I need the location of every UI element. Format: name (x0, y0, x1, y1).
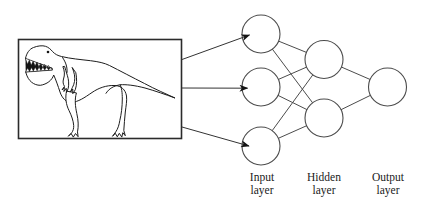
output-layer-node (369, 68, 407, 106)
input-layer-node (242, 15, 280, 53)
input-arrow (182, 127, 249, 146)
hidden-layer-node (305, 41, 343, 79)
input-image-box (19, 40, 182, 139)
hidden-layer-node (305, 99, 343, 137)
input-layer-node (242, 68, 280, 106)
input-arrow (182, 35, 250, 60)
output-layer-label: Output layer (348, 171, 424, 197)
trex-eye (47, 51, 50, 54)
nodes-group (242, 15, 407, 165)
arrows-group (182, 35, 250, 146)
